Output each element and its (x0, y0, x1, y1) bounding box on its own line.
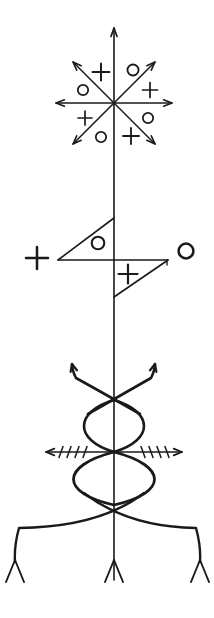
canvas-background (0, 0, 214, 618)
stave-figure-canvas (0, 0, 214, 618)
